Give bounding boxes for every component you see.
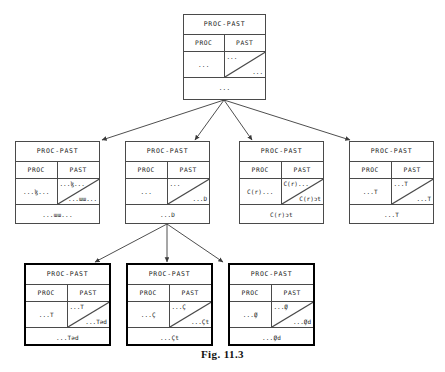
node-level2-2-header-row: PROC-PAST	[126, 142, 209, 162]
arrow-n2-to-b1	[95, 224, 167, 262]
node-level3-2-output: ...Çt	[160, 335, 179, 341]
node-level3-3-header-label: PROC-PAST	[251, 271, 293, 278]
node-level3-3-output-cell: ...Ø̧d	[230, 328, 313, 348]
node-root-header-label: PROC-PAST	[204, 21, 246, 28]
arrow-root-to-n4	[224, 100, 350, 140]
node-root-right-top: ...	[227, 54, 238, 60]
node-level3-3-proc-label: PROC	[242, 290, 259, 296]
node-level3-1-output-row: ...Təd	[26, 328, 109, 348]
node-level3-2-proc-label: PROC	[140, 290, 157, 296]
node-level2-1-proc-cell: PROC	[16, 162, 58, 178]
node-level2-4-proc-label: PROC	[362, 167, 379, 173]
node-level2-4-output-row: ...T	[350, 205, 433, 225]
node-level3-1-past-label: PAST	[80, 290, 97, 296]
node-level3-1-header-row: PROC-PAST	[26, 265, 109, 285]
node-level2-4-right-bottom: ...T	[417, 196, 431, 202]
node-level2-2-proc-cell: PROC	[126, 162, 168, 178]
node-level3-1-left-content-cell: ...T	[26, 302, 68, 327]
node-root[interactable]: PROC-PAST PROC PAST ... ... ...	[183, 14, 266, 100]
node-level2-3-right-bottom: C(r)ɔt	[299, 196, 321, 202]
arrow-root-to-n1	[102, 100, 224, 140]
node-level3-2[interactable]: PROC-PAST PROC PAST ...Ç ...Ç ...Çt	[126, 263, 213, 346]
node-level2-3-proc-cell: PROC	[240, 162, 282, 178]
arrow-n2-to-b3	[167, 224, 223, 262]
node-level2-2-right-top: ...	[170, 181, 181, 187]
node-level2-3-left-content-cell: C(r)...	[240, 179, 282, 204]
arrow-root-to-n2	[195, 100, 224, 140]
node-level2-4-left-content: ...T	[363, 189, 378, 195]
node-level3-3-left-content-cell: ...Ø̧	[230, 302, 272, 327]
node-level2-1-content-row: ...ɮ... ...ɮ... ...ɯɯ...	[16, 179, 99, 205]
node-level3-1-proc-cell: PROC	[26, 285, 68, 301]
node-level2-4-header-cell: PROC-PAST	[350, 142, 433, 161]
node-level3-1-content-row: ...T ...T ...Təd	[26, 302, 109, 328]
node-root-header-row: PROC-PAST	[184, 15, 265, 35]
node-level2-2[interactable]: PROC-PAST PROC PAST ... ... ...D	[125, 141, 210, 224]
node-level2-3-header-cell: PROC-PAST	[240, 142, 323, 161]
node-level2-3-proc-label: PROC	[252, 167, 269, 173]
node-level2-1-proc-label: PROC	[28, 167, 45, 173]
node-level3-3-output: ...Ø̧d	[262, 335, 281, 341]
node-level2-1-output: ...ɯɯ...	[42, 212, 73, 218]
node-level3-1[interactable]: PROC-PAST PROC PAST ...T ...T ...Təd	[24, 263, 111, 346]
node-level2-1-output-row: ...ɯɯ...	[16, 205, 99, 225]
node-level2-3-left-content: C(r)...	[247, 189, 274, 195]
node-level3-3[interactable]: PROC-PAST PROC PAST ...Ø̧ ...Ø̧ ...Ø̧d	[228, 263, 315, 346]
node-level2-4-left-content-cell: ...T	[350, 179, 392, 204]
node-level3-1-header-label: PROC-PAST	[47, 271, 89, 278]
node-level2-3-past-cell: PAST	[282, 162, 324, 178]
node-level2-1-left-content-cell: ...ɮ...	[16, 179, 58, 204]
node-level2-3-output-row: C(r)ɔt	[240, 205, 323, 225]
node-root-left-content: ...	[198, 62, 209, 68]
node-root-proc-cell: PROC	[184, 35, 225, 51]
node-level3-1-left-content: ...T	[39, 312, 54, 318]
node-level2-1-header-label: PROC-PAST	[37, 148, 79, 155]
node-level3-2-category-row: PROC PAST	[128, 285, 211, 302]
node-level2-1[interactable]: PROC-PAST PROC PAST ...ɮ... ...ɮ... ...ɯ…	[15, 141, 100, 224]
node-level3-2-past-label: PAST	[182, 290, 199, 296]
node-level2-1-right-bottom: ...ɯɯ...	[68, 196, 97, 202]
node-level3-3-content-row: ...Ø̧ ...Ø̧ ...Ø̧d	[230, 302, 313, 328]
node-level3-3-right-content-cell: ...Ø̧ ...Ø̧d	[272, 302, 314, 327]
node-root-category-row: PROC PAST	[184, 35, 265, 52]
node-level2-3[interactable]: PROC-PAST PROC PAST C(r)... C(r)... C(r)…	[239, 141, 324, 224]
node-level2-1-past-cell: PAST	[58, 162, 100, 178]
node-level3-3-output-row: ...Ø̧d	[230, 328, 313, 348]
node-level2-2-header-cell: PROC-PAST	[126, 142, 209, 161]
node-level2-4-content-row: ...T ...T ...T	[350, 179, 433, 205]
node-level3-2-output-row: ...Çt	[128, 328, 211, 348]
derivation-tree-figure: PROC-PAST PROC PAST ... ... ...	[0, 0, 445, 372]
node-level3-1-past-cell: PAST	[68, 285, 110, 301]
node-level3-2-proc-cell: PROC	[128, 285, 170, 301]
node-level2-2-content-row: ... ... ...D	[126, 179, 209, 205]
node-level2-2-output: ...D	[160, 212, 175, 218]
node-root-past-cell: PAST	[225, 35, 266, 51]
node-level3-1-right-bottom: ...Təd	[85, 319, 107, 325]
node-level2-4-header-row: PROC-PAST	[350, 142, 433, 162]
node-level2-2-proc-label: PROC	[138, 167, 155, 173]
node-level3-3-right-top: ...Ø̧	[274, 304, 288, 310]
node-level2-4-right-top: ...T	[394, 181, 408, 187]
node-level3-3-proc-cell: PROC	[230, 285, 272, 301]
node-root-left-content-cell: ...	[184, 52, 225, 77]
node-level2-2-past-cell: PAST	[168, 162, 210, 178]
node-level3-3-past-label: PAST	[284, 290, 301, 296]
node-level2-4-past-cell: PAST	[392, 162, 434, 178]
node-level3-2-right-top: ...Ç	[172, 304, 186, 310]
node-root-past-label: PAST	[236, 40, 253, 46]
node-level2-4-category-row: PROC PAST	[350, 162, 433, 179]
figure-caption: Fig. 11.3	[0, 348, 445, 360]
node-level3-3-header-cell: PROC-PAST	[230, 265, 313, 284]
node-level2-4-past-label: PAST	[404, 167, 421, 173]
node-root-content-row: ... ... ...	[184, 52, 265, 78]
node-level3-2-past-cell: PAST	[170, 285, 212, 301]
node-level2-4-proc-cell: PROC	[350, 162, 392, 178]
node-level2-1-left-content: ...ɮ...	[23, 189, 50, 195]
node-level2-2-right-bottom: ...D	[193, 196, 207, 202]
node-level3-3-category-row: PROC PAST	[230, 285, 313, 302]
node-level3-1-header-cell: PROC-PAST	[26, 265, 109, 284]
node-root-output-cell: ...	[184, 78, 265, 98]
node-level2-4[interactable]: PROC-PAST PROC PAST ...T ...T ...T	[349, 141, 434, 224]
arrow-root-to-n3	[224, 100, 252, 140]
node-level2-2-header-label: PROC-PAST	[147, 148, 189, 155]
